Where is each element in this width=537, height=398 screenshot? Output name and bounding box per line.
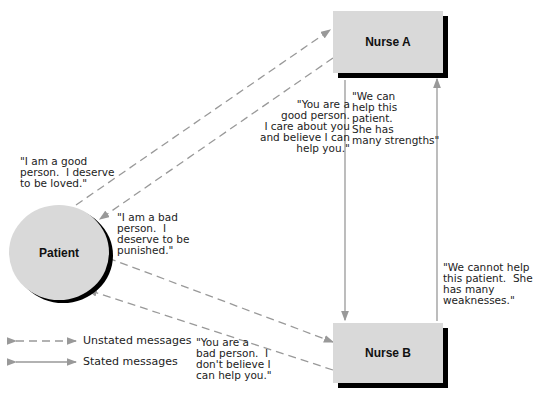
nurse-b-label: Nurse B xyxy=(365,346,411,360)
arrow-patient-to-nurse-b xyxy=(108,258,333,342)
patient-bad-message: "I am a bad person. I deserve to be puni… xyxy=(117,212,189,256)
nurse-b-to-patient-message: "You are a bad person. I don't believe I… xyxy=(196,337,272,381)
nurse-a-box: Nurse A xyxy=(333,11,443,73)
patient-circle: Patient xyxy=(9,205,109,300)
legend-unstated-label: Unstated messages xyxy=(83,334,192,347)
nurse-b-box: Nurse B xyxy=(333,323,443,383)
nurse-a-to-patient-message: "You are a good person. I care about you… xyxy=(260,99,350,154)
nurse-b-to-nurse-a-message: "We cannot help this patient. She has ma… xyxy=(443,262,533,306)
patient-good-message: "I am a good person. I deserve to be lov… xyxy=(20,156,115,189)
patient-label: Patient xyxy=(39,246,79,260)
nurse-a-to-nurse-b-message: "We can help this patient. She has many … xyxy=(352,91,439,146)
legend-stated-label: Stated messages xyxy=(83,355,178,368)
nurse-a-label: Nurse A xyxy=(365,35,411,49)
